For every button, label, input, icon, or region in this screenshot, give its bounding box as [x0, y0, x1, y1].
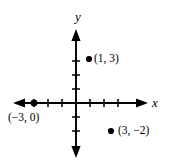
x-axis-label: x: [152, 96, 158, 109]
plot-point-neg3-0: [31, 100, 38, 107]
y-axis-bottom-arrow-icon: [71, 146, 80, 158]
x-axis-left-arrow-icon: [13, 98, 25, 107]
y-axis-label: y: [75, 10, 81, 23]
point-label-3-neg2: (3, −2): [118, 125, 149, 137]
coordinate-plane-figure: y x (1, 3) (−3, 0) (3, −2): [0, 0, 172, 163]
point-label-neg3-0: (−3, 0): [8, 112, 39, 124]
plot-point-3-neg2: [108, 128, 114, 134]
point-label-1-3: (1, 3): [94, 53, 119, 65]
plot-point-1-3: [86, 56, 92, 62]
y-axis-top-arrow-icon: [71, 29, 80, 41]
x-axis-right-arrow-icon: [136, 98, 148, 107]
plot-graphics: [0, 0, 172, 163]
